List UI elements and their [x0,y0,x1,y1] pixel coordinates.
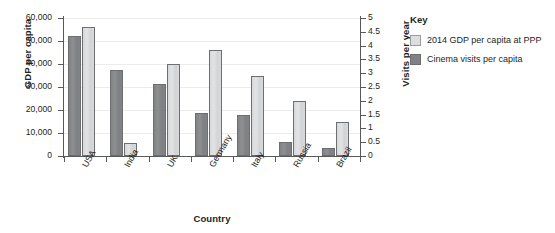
x-axis-tick [318,157,319,162]
bar-cinema-visits[interactable] [322,148,335,156]
y-axis-left-tick-label: 10,000 [26,127,52,137]
legend-item: 2014 GDP per capita at PPP [410,34,552,46]
legend-item: Cinema visits per capita [410,53,552,65]
bar-group [195,18,222,156]
legend-swatch-cinema-icon [410,54,421,65]
y-axis-left-tick-label: 60,000 [26,12,52,22]
y-axis-left-tick-label: 20,000 [26,104,52,114]
y-axis-right-tick-label: 1.5 [368,109,380,119]
bar-cinema-visits[interactable] [279,142,292,156]
y-axis-left-tick [58,18,63,19]
y-axis-right-tick [361,101,366,102]
y-axis-right-tick [361,142,366,143]
y-axis-right-tick-label: 3.5 [368,53,380,63]
y-axis-left-tick [58,133,63,134]
bar-gdp-per-capita[interactable] [82,27,95,156]
bar-group [237,18,264,156]
y-axis-right-tick [361,59,366,60]
y-axis-right-tick [361,128,366,129]
y-axis-right-tick [361,73,366,74]
bar-cinema-visits[interactable] [153,84,166,156]
legend-label-cinema: Cinema visits per capita [427,53,523,65]
y-axis-right-tick-label: 2.5 [368,81,380,91]
y-axis-left-tick [58,156,63,157]
plot-area [64,18,360,156]
x-axis-tick [106,157,107,162]
y-axis-right-tick-label: 5 [368,12,373,22]
y-axis-right-tick [361,46,366,47]
y-axis-right-tick-label: 1 [368,122,373,132]
x-axis-tick [191,157,192,162]
x-axis-tick [233,157,234,162]
bar-gdp-per-capita[interactable] [167,64,180,156]
y-axis-left-tick [58,110,63,111]
y-axis-left-tick [58,64,63,65]
y-axis-right-tick-label: 3 [368,67,373,77]
x-axis-title: Country [64,213,360,224]
x-axis-tick [149,157,150,162]
y-axis-right-tick-label: 0 [368,150,373,160]
y-axis-left-tick-label: 50,000 [26,35,52,45]
bar-cinema-visits[interactable] [68,36,81,156]
bar-group [322,18,349,156]
bar-group [279,18,306,156]
bar-group [153,18,180,156]
y-axis-left-tick-label: 30,000 [26,81,52,91]
y-axis-left-tick [58,87,63,88]
bar-group [110,18,137,156]
legend-title: Key [410,14,552,25]
y-axis-left-tick-label: 0 [47,150,52,160]
x-axis-tick [360,157,361,162]
y-axis-right-tick [361,156,366,157]
legend-swatch-gdp-icon [410,35,421,46]
legend: Key 2014 GDP per capita at PPP Cinema vi… [410,14,552,72]
y-axis-right-tick-label: 4 [368,40,373,50]
y-axis-right-title: Visits per year [400,0,411,109]
bar-cinema-visits[interactable] [110,70,123,156]
y-axis-right-tick [361,18,366,19]
bar-chart: GDP per capita Visits per year Country 0… [0,0,555,233]
y-axis-right-tick [361,32,366,33]
bar-group [68,18,95,156]
y-axis-right-tick [361,87,366,88]
y-axis-left-tick [58,41,63,42]
bar-cinema-visits[interactable] [237,115,250,156]
x-axis-tick [275,157,276,162]
y-axis-right-tick-label: 0.5 [368,136,380,146]
y-axis-right-tick [361,115,366,116]
y-axis-right-tick-label: 4.5 [368,26,380,36]
y-axis-left-tick-label: 40,000 [26,58,52,68]
bar-gdp-per-capita[interactable] [251,76,264,157]
y-axis-right-tick-label: 2 [368,95,373,105]
x-axis-tick [64,157,65,162]
bar-cinema-visits[interactable] [195,113,208,156]
legend-label-gdp: 2014 GDP per capita at PPP [427,34,541,46]
